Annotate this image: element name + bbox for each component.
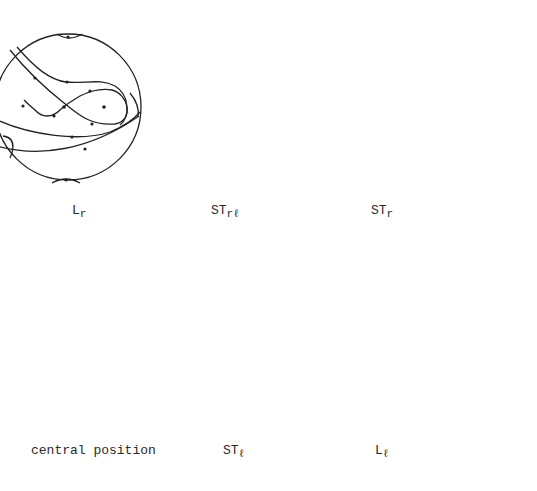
label-main: ST bbox=[211, 203, 227, 218]
label-subscript: ℓ bbox=[383, 448, 390, 460]
panel-label-central: central position bbox=[31, 443, 156, 458]
centre-point bbox=[102, 105, 106, 109]
panel-label-Lr: Lr bbox=[72, 203, 86, 218]
label-subscript: r bbox=[387, 208, 394, 220]
arrow-marker bbox=[90, 122, 93, 125]
label-main: L bbox=[375, 443, 383, 458]
separatrix bbox=[10, 50, 127, 124]
arrow-marker bbox=[83, 147, 86, 150]
panel-label-STl: STℓ bbox=[223, 443, 245, 458]
trajectory-band bbox=[0, 116, 139, 151]
label-main: L bbox=[72, 203, 80, 218]
trajectory-band bbox=[0, 112, 140, 137]
separatrix-outer bbox=[17, 47, 127, 125]
label-subscript: ℓ bbox=[239, 448, 246, 460]
panel-Lr bbox=[0, 34, 141, 183]
start-point bbox=[21, 104, 24, 107]
label-subscript: rℓ bbox=[227, 208, 240, 220]
panel-label-STr: STr bbox=[371, 203, 393, 218]
arrow-marker bbox=[65, 80, 68, 83]
label-main: ST bbox=[371, 203, 387, 218]
arrow-marker bbox=[66, 35, 69, 38]
arrow-marker bbox=[70, 135, 73, 138]
saddle-point bbox=[62, 105, 66, 109]
arrow-marker bbox=[88, 89, 91, 92]
trajectory-band bbox=[3, 136, 13, 158]
phase-portrait-figure bbox=[0, 0, 537, 491]
label-subscript: r bbox=[80, 208, 87, 220]
arrow-marker bbox=[64, 178, 67, 181]
label-main: central position bbox=[31, 443, 156, 458]
label-main: ST bbox=[223, 443, 239, 458]
panel-label-STrl: STrℓ bbox=[211, 203, 240, 218]
arrow-marker bbox=[52, 114, 55, 117]
arrow-marker bbox=[33, 76, 36, 79]
edge-trajectory bbox=[130, 93, 138, 117]
boundary-circle bbox=[0, 34, 141, 180]
panel-label-Ll: Lℓ bbox=[375, 443, 389, 458]
